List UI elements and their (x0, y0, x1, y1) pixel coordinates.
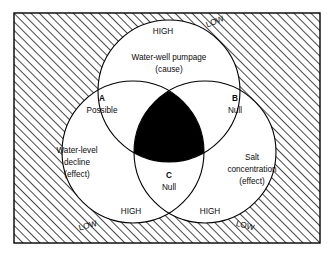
left-circle-title-line2: decline (64, 158, 90, 167)
region-c-value: Null (162, 183, 176, 192)
top-circle-title-line2: (cause) (155, 65, 183, 74)
right-circle-title-line3: (effect) (239, 177, 265, 186)
top-circle-high-label: HIGH (153, 27, 174, 36)
right-circle-title-line2: concentration (227, 165, 277, 174)
right-circle-title-line1: Salt (245, 153, 260, 162)
region-b-letter: B (232, 94, 238, 103)
region-a-letter: A (99, 94, 105, 103)
left-circle-title-line1: Water-level (56, 146, 97, 155)
left-circle-high-label: HIGH (121, 207, 142, 216)
left-circle-title-line3: (effect) (64, 170, 90, 179)
right-circle-high-label: HIGH (200, 207, 221, 216)
region-a-value: Possible (87, 106, 118, 115)
top-circle-title-line1: Water-well pumpage (132, 53, 207, 62)
region-c-letter: C (166, 171, 172, 180)
venn-diagram-canvas: HIGH LOW Water-well pumpage (cause) A Po… (0, 0, 334, 257)
venn-diagram-figure: HIGH LOW Water-well pumpage (cause) A Po… (0, 0, 334, 257)
region-b-value: Null (228, 106, 242, 115)
